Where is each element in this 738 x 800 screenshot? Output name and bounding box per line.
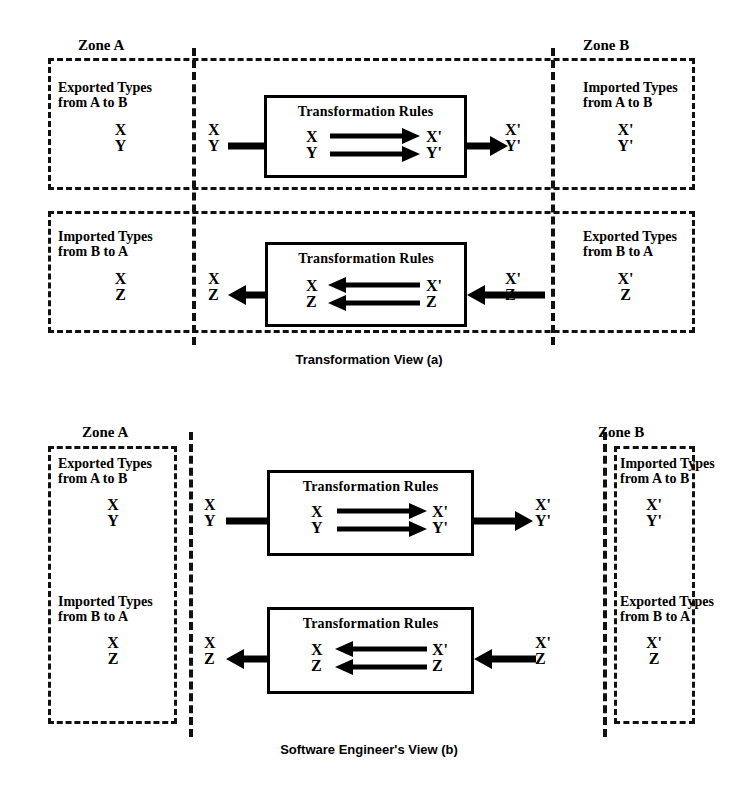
panel-b-row2-rules-out-types: X' Z <box>432 642 448 674</box>
panel-b-row2-left-block-types: X Z <box>53 635 173 667</box>
panel-a-row2-right-block-types: X' Z <box>563 271 688 303</box>
panel-b-row1-right-block-title: Imported Types from A to B <box>620 456 715 486</box>
panel-a-row1-rules-title: Transformation Rules <box>267 104 464 120</box>
panel-a-row2-left-block-title: Imported Types from B to A <box>58 229 153 259</box>
panel-a-row2-left-edge-types: X Z <box>208 271 220 303</box>
panel-b-row2-left-edge-types: X Z <box>204 635 216 667</box>
figure-canvas: Zone A Zone B Exported Types from A to B… <box>0 0 738 800</box>
panel-b-zone-b-box <box>614 446 695 724</box>
panel-b-row1-rules-in-types: X Y <box>311 504 323 536</box>
panel-b-zone-a-label: Zone A <box>82 424 128 441</box>
panel-a-row2-rules-title: Transformation Rules <box>268 251 464 267</box>
panel-a-row1-left-block-types: X Y <box>58 122 183 154</box>
panel-b-row1-left-block-types: X Y <box>53 497 173 529</box>
panel-a-caption: Transformation View (a) <box>0 352 738 367</box>
panel-a-row1-left-edge-types: X Y <box>208 122 220 154</box>
panel-b-row1-left-edge-types: X Y <box>204 497 216 529</box>
panel-b-row2-right-block-types: X' Z <box>619 635 689 667</box>
panel-b-zone-a-divider <box>189 432 193 737</box>
panel-b-row1-right-block-types: X' Y' <box>619 497 689 529</box>
panel-a-row2-right-edge-types: X' Z <box>505 271 521 303</box>
panel-a-row2-left-block-types: X Z <box>58 271 183 303</box>
panel-a-zone-a-label: Zone A <box>78 37 124 54</box>
panel-a-row1-rules-out-types: X' Y' <box>426 129 442 161</box>
panel-b-row2-right-edge-types: X' Z <box>535 635 551 667</box>
panel-b-row1-left-block-title: Exported Types from A to B <box>58 456 152 486</box>
panel-b-row2-left-block-title: Imported Types from B to A <box>58 594 153 624</box>
panel-a-row1-left-block-title: Exported Types from A to B <box>58 80 152 110</box>
panel-b-caption: Software Engineer's View (b) <box>0 742 738 757</box>
panel-a-zone-b-divider <box>551 48 555 345</box>
panel-a-row2-rules-out-types: X' Z <box>426 278 442 310</box>
panel-a-row1-right-block-title: Imported Types from A to B <box>583 80 678 110</box>
panel-a-row1-rules-in-types: X Y <box>306 129 318 161</box>
panel-b-row1-right-edge-types: X' Y' <box>535 497 551 529</box>
panel-a-row2-right-block-title: Exported Types from B to A <box>583 229 677 259</box>
panel-b-zone-b-divider <box>603 432 607 737</box>
panel-b-row1-rules-title: Transformation Rules <box>270 479 471 495</box>
panel-b-row2-rules-in-types: X Z <box>311 642 323 674</box>
panel-a-zone-a-divider <box>192 48 196 345</box>
panel-a-zone-b-label: Zone B <box>583 37 629 54</box>
panel-b-row1-rules-out-types: X' Y' <box>432 504 448 536</box>
panel-a-row2-rules-in-types: X Z <box>306 278 318 310</box>
panel-b-row2-right-block-title: Exported Types from B to A <box>620 594 714 624</box>
panel-a-row1-right-block-types: X' Y' <box>563 122 688 154</box>
panel-b-row2-rules-title: Transformation Rules <box>270 616 471 632</box>
panel-b-zone-a-box <box>48 446 177 724</box>
panel-a-row1-right-edge-types: X' Y' <box>505 122 521 154</box>
